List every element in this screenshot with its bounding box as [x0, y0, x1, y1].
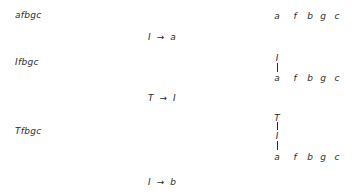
right-arrow-icon: →	[160, 93, 168, 103]
rule-rhs: b	[170, 177, 176, 187]
tree-edge	[277, 141, 278, 150]
rule-3: I → b	[148, 177, 176, 187]
tree-leaf: g	[318, 152, 328, 162]
tree-edge	[277, 122, 278, 130]
tree-leaf: b	[305, 73, 315, 83]
tree-leaf: b	[305, 11, 315, 21]
rule-lhs: T	[148, 93, 154, 103]
rule-2: T → I	[148, 93, 176, 103]
rule-1: I → a	[148, 32, 176, 42]
tree-leaf: a	[272, 11, 282, 21]
tree-leaf: f	[290, 152, 300, 162]
tree-leaf: a	[272, 152, 282, 162]
tree-node: I	[272, 131, 282, 141]
tree-edge	[277, 63, 278, 72]
rule-rhs: I	[173, 93, 176, 103]
tree-leaf: c	[332, 73, 342, 83]
tree-leaf: g	[318, 11, 328, 21]
derivation-string-1: afbgc	[15, 10, 42, 20]
tree-leaf: a	[272, 73, 282, 83]
tree-leaf: f	[290, 73, 300, 83]
rule-rhs: a	[170, 32, 176, 42]
tree-leaf: b	[305, 152, 315, 162]
tree-node: I	[272, 53, 282, 63]
tree-leaf: c	[332, 152, 342, 162]
rule-lhs: I	[148, 32, 151, 42]
rule-lhs: I	[148, 177, 151, 187]
right-arrow-icon: →	[157, 177, 165, 187]
tree-leaf: c	[332, 11, 342, 21]
right-arrow-icon: →	[157, 32, 165, 42]
tree-leaf: g	[318, 73, 328, 83]
derivation-string-3: Tfbgc	[15, 126, 42, 136]
tree-leaf: f	[290, 11, 300, 21]
derivation-string-2: Ifbgc	[15, 57, 39, 67]
